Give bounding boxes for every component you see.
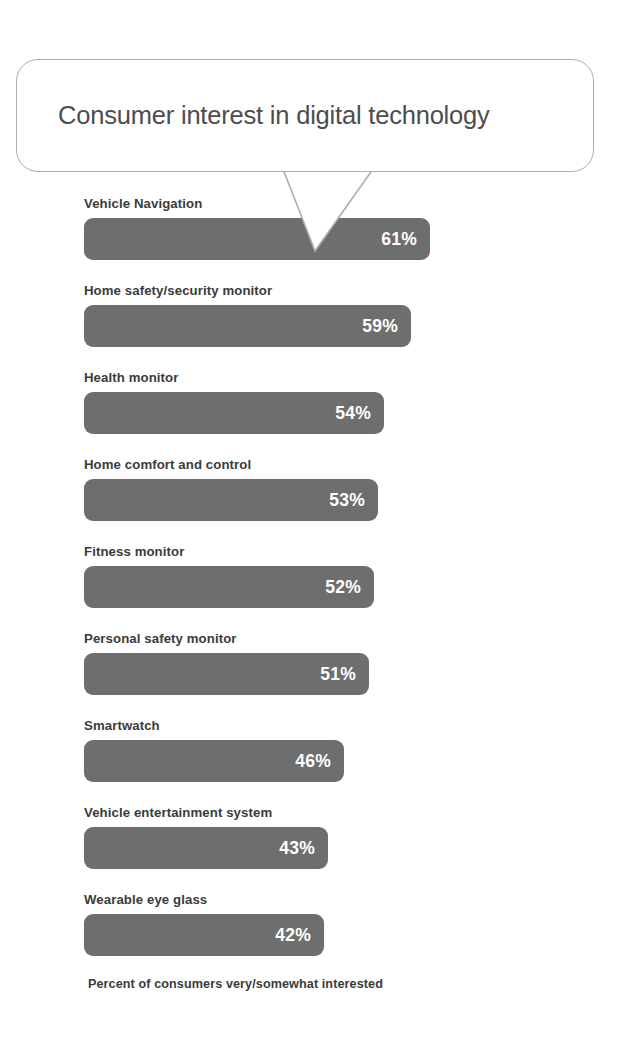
bar-track: 46% — [84, 740, 626, 782]
bar-value-label: 43% — [279, 838, 315, 859]
bar-row: Vehicle entertainment system 43% — [0, 805, 626, 892]
bar-value-label: 59% — [362, 316, 398, 337]
bar-category-label: Vehicle entertainment system — [84, 805, 272, 820]
callout-tail-icon — [275, 165, 395, 257]
bar-value-label: 52% — [325, 577, 361, 598]
bar-track: 59% — [84, 305, 626, 347]
bar-category-label: Health monitor — [84, 370, 178, 385]
bar-row: Health monitor 54% — [0, 370, 626, 457]
bar-category-label: Wearable eye glass — [84, 892, 207, 907]
bar-smartwatch: 46% — [84, 740, 344, 782]
bar-track: 53% — [84, 479, 626, 521]
bar-chart: Vehicle Navigation 61% Home safety/secur… — [0, 196, 626, 979]
callout-bubble: Consumer interest in digital technology — [16, 59, 594, 172]
bar-vehicle-entertainment-system: 43% — [84, 827, 328, 869]
chart-footnote: Percent of consumers very/somewhat inter… — [88, 977, 383, 991]
bar-category-label: Home comfort and control — [84, 457, 251, 472]
bar-value-label: 51% — [320, 664, 356, 685]
bar-category-label: Smartwatch — [84, 718, 160, 733]
bar-row: Home safety/security monitor 59% — [0, 283, 626, 370]
bar-value-label: 46% — [295, 751, 331, 772]
chart-title: Consumer interest in digital technology — [58, 100, 490, 129]
bar-home-comfort-and-control: 53% — [84, 479, 378, 521]
bar-row: Wearable eye glass 42% — [0, 892, 626, 979]
bar-value-label: 54% — [335, 403, 371, 424]
bar-wearable-eye-glass: 42% — [84, 914, 324, 956]
bar-home-safety-security-monitor: 59% — [84, 305, 411, 347]
bar-row: Fitness monitor 52% — [0, 544, 626, 631]
bar-row: Smartwatch 46% — [0, 718, 626, 805]
bar-category-label: Home safety/security monitor — [84, 283, 272, 298]
bar-track: 43% — [84, 827, 626, 869]
bar-value-label: 42% — [275, 925, 311, 946]
bar-fitness-monitor: 52% — [84, 566, 374, 608]
bar-category-label: Vehicle Navigation — [84, 196, 202, 211]
chart-page: Consumer interest in digital technology … — [0, 0, 626, 1037]
bar-category-label: Personal safety monitor — [84, 631, 237, 646]
bar-row: Home comfort and control 53% — [0, 457, 626, 544]
bar-category-label: Fitness monitor — [84, 544, 184, 559]
bar-track: 54% — [84, 392, 626, 434]
bar-row: Personal safety monitor 51% — [0, 631, 626, 718]
bar-value-label: 53% — [329, 490, 365, 511]
bar-track: 52% — [84, 566, 626, 608]
bar-track: 51% — [84, 653, 626, 695]
bar-track: 42% — [84, 914, 626, 956]
bar-personal-safety-monitor: 51% — [84, 653, 369, 695]
bar-health-monitor: 54% — [84, 392, 384, 434]
